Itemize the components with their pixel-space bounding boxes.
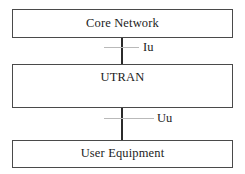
node-core-network: Core Network [12,9,233,38]
interface-tick-iu [104,47,139,48]
interface-label-iu: Iu [143,40,153,54]
node-utran-label: UTRAN [13,70,232,84]
node-utran: UTRAN [12,64,233,108]
network-architecture-diagram: Core Network Iu UTRAN Uu User Equipment [0,0,245,174]
node-user-equipment: User Equipment [12,140,233,168]
node-user-equipment-label: User Equipment [13,146,232,160]
connector-core-network-to-utran [121,37,123,65]
interface-label-uu: Uu [157,111,172,125]
connector-utran-to-user-equipment [121,107,123,141]
node-core-network-label: Core Network [13,16,232,30]
interface-tick-uu [104,118,154,119]
